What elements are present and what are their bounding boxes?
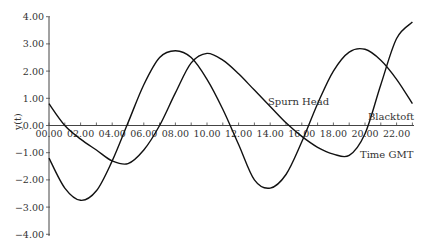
- y-tick-label: 2.00: [23, 66, 44, 77]
- y-tick-label: 4.00: [23, 11, 44, 22]
- y-tick-label: −1.00: [15, 147, 44, 158]
- y-axis-title: y(t): [12, 113, 23, 131]
- y-tick-label: −4.00: [15, 229, 44, 240]
- tide-chart: 4.003.002.001.000.00−1.00−2.00−3.00−4.00…: [0, 0, 424, 252]
- x-tick-label: 14.00: [257, 128, 284, 139]
- x-tick-label: 10.00: [193, 128, 220, 139]
- blacktoft-label: Blacktoft: [368, 111, 414, 122]
- y-tick-label: −3.00: [15, 202, 44, 213]
- blacktoft-line: [49, 22, 412, 164]
- x-axis-ticks: 00.0002.0004.0006.0008.0010.0012.0014.00…: [35, 123, 412, 139]
- spurn-head-label: Spurn Head: [268, 96, 330, 107]
- y-tick-label: −2.00: [15, 174, 44, 185]
- y-tick-label: 1.00: [23, 93, 44, 104]
- y-tick-label: 3.00: [23, 38, 44, 49]
- spurn-head-line: [49, 49, 412, 201]
- x-tick-label: 08.00: [162, 128, 189, 139]
- x-axis-title: Time GMT: [360, 149, 414, 160]
- x-tick-label: 18.00: [320, 128, 347, 139]
- x-tick-label: 12.00: [225, 128, 252, 139]
- x-tick-label: 02.00: [67, 128, 94, 139]
- x-tick-label: 22.00: [383, 128, 410, 139]
